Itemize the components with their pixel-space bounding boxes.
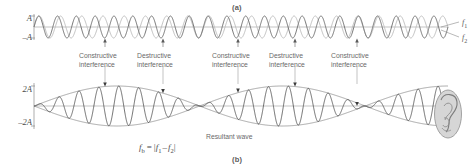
top-axis-label-positive-a: A [14,13,32,23]
panel-a-label: (a) [232,3,242,12]
annotation-line-2: interference [269,61,305,70]
wave-label-f1-subscript: 1 [464,23,467,29]
panel-b-label: (b) [232,155,242,164]
interference-annotation: Constructiveinterference [79,52,117,70]
bottom-plot-envelope-upper [34,86,448,106]
wave-label-f2: f2 [462,33,467,44]
annotation-pointer [293,39,297,48]
wave-label-f2-subscript: 2 [464,38,467,44]
leader-line-f2 [441,30,459,37]
interference-annotation: Constructiveinterference [331,52,369,70]
figure-canvas [0,0,476,167]
formula-equals: = [145,142,154,152]
pointer-arrowhead [161,39,165,43]
beat-frequency-formula: fb=|f1–f2| [139,142,176,154]
annotation-pointer [161,39,165,48]
resultant-wave-caption: Resultant wave [206,133,252,140]
top-axis-label-negative-a: –A [8,32,32,42]
annotation-line-1: Constructive [79,52,117,61]
annotation-line-1: Constructive [212,52,250,61]
annotation-line-2: interference [331,61,369,70]
annotation-pointer [355,39,359,48]
bottom-axis-label-negative-2a: –2A [4,117,32,127]
annotation-pointer [103,39,107,48]
bottom-pointer-arrowhead [103,82,107,86]
wave-label-f1: f1 [462,18,467,29]
pointer-arrowhead [355,39,359,43]
bottom-pointer-arrowhead [355,102,359,106]
beats-interference-figure: (a) A –A f1 f2 ConstructiveinterferenceD… [0,0,476,167]
bottom-axis-label-positive-2a: 2A [8,84,32,94]
pointer-arrowhead [293,39,297,43]
interference-annotation: Destructiveinterference [137,52,173,70]
annotation-line-2: interference [212,61,250,70]
annotation-line-2: interference [79,61,117,70]
leader-line-f1 [441,22,459,27]
pointer-arrowhead [103,39,107,43]
interference-annotation: Destructiveinterference [269,52,305,70]
annotation-line-1: Constructive [331,52,369,61]
bottom-pointer-arrowhead [293,82,297,86]
annotation-pointer [236,39,240,48]
annotation-line-1: Destructive [269,52,305,61]
annotation-line-2: interference [137,61,173,70]
ear-illustration [435,90,462,138]
pointer-arrowhead [236,39,240,43]
annotation-line-1: Destructive [137,52,173,61]
formula-close-bar: | [174,142,176,152]
interference-annotation: Constructiveinterference [212,52,250,70]
